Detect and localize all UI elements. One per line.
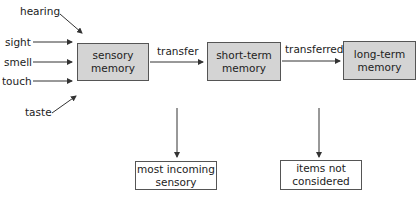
outcome-line2: considered: [292, 175, 350, 188]
sensory-memory-box: sensory memory: [77, 43, 149, 81]
transfer-label: transfer: [157, 45, 198, 57]
input-taste: taste: [25, 106, 52, 118]
stage-line1: long-term: [354, 48, 405, 61]
sensory-outcome-box: most incoming sensory: [135, 161, 217, 190]
input-hearing: hearing: [20, 5, 60, 17]
stage-line1: short-term: [216, 49, 272, 62]
short-term-memory-box: short-term memory: [207, 42, 281, 81]
stage-line2: memory: [358, 61, 402, 74]
shortterm-outcome-box: items not considered: [280, 160, 362, 190]
outcome-line1: items not: [296, 162, 346, 175]
stage-line2: memory: [91, 62, 135, 75]
input-smell: smell: [4, 56, 32, 68]
cropped-caption: [0, 190, 230, 197]
taste-arrow: [52, 96, 76, 113]
hearing-arrow: [60, 14, 82, 33]
stage-line2: memory: [222, 62, 266, 75]
transferred-label: transferred: [285, 43, 344, 55]
long-term-memory-box: long-term memory: [343, 41, 416, 80]
outcome-line2: sensory: [155, 176, 196, 189]
input-touch: touch: [2, 75, 32, 87]
outcome-line1: most incoming: [137, 163, 215, 176]
stage-line1: sensory: [92, 49, 133, 62]
input-sight: sight: [5, 36, 31, 48]
